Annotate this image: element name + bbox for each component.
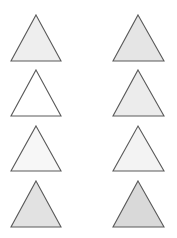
triangle-grid-figure xyxy=(0,0,177,238)
triangle-grid-svg xyxy=(0,0,177,238)
